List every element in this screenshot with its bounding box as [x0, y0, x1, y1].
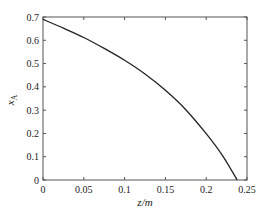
y-tick-label: 0.6: [27, 35, 40, 46]
y-tick-label: 0.7: [27, 12, 40, 23]
x-tick-label: 0.25: [238, 184, 256, 195]
x-axis-ticks: 00.050.10.150.20.25: [41, 17, 256, 195]
y-tick-label: 0.4: [27, 81, 40, 92]
y-tick-label: 0: [34, 175, 39, 186]
x-tick-label: 0.05: [75, 184, 93, 195]
y-tick-label: 0.5: [27, 58, 40, 69]
plot-frame: [43, 17, 247, 180]
series-line-x_A: [43, 19, 237, 180]
y-axis-ticks: 00.10.20.30.40.50.60.7: [27, 12, 248, 186]
x-tick-label: 0.15: [157, 184, 175, 195]
data-series: [43, 19, 237, 180]
plot-border: [43, 17, 247, 180]
x-tick-label: 0.2: [200, 184, 213, 195]
x-tick-label: 0: [41, 184, 46, 195]
y-tick-label: 0.1: [27, 151, 40, 162]
x-tick-label: 0.1: [118, 184, 131, 195]
y-axis-label-sub: A: [10, 94, 19, 100]
y-axis-label: xA: [4, 94, 19, 106]
y-tick-label: 0.3: [27, 105, 40, 116]
y-tick-label: 0.2: [27, 128, 40, 139]
x-axis-label: z/m: [136, 196, 152, 208]
line-chart: 00.050.10.150.20.25 00.10.20.30.40.50.60…: [0, 0, 265, 215]
